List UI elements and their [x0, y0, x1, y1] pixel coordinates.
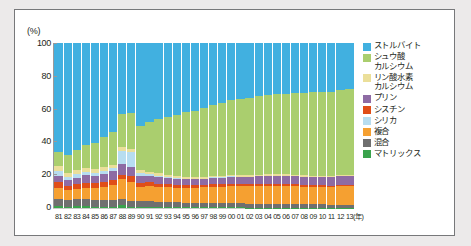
bar-91[interactable]: [145, 43, 153, 208]
legend-item-2[interactable]: リン酸水素 カルシウム: [363, 73, 451, 92]
bar-03[interactable]: [255, 43, 263, 208]
bar-segment: [91, 200, 99, 207]
legend-label: シリカ: [374, 116, 397, 126]
bar-87[interactable]: [109, 43, 117, 208]
legend-item-7[interactable]: 混合: [363, 138, 451, 148]
x-axis-unit-label: (年): [353, 210, 363, 224]
bar-segment: [82, 175, 90, 182]
bar-segment: [109, 207, 117, 208]
chart-figure: (%) 020406080100 81828384858687888990919…: [14, 9, 455, 236]
bar-10[interactable]: [318, 43, 326, 208]
bar-segment: [209, 187, 217, 204]
x-axis-tick-95: 95: [181, 210, 190, 224]
bar-88[interactable]: [118, 43, 126, 208]
legend-item-8[interactable]: マトリックス: [363, 149, 451, 159]
bar-95[interactable]: [182, 43, 190, 208]
legend-item-1[interactable]: シュウ酸 カルシウム: [363, 52, 451, 71]
bar-segment: [118, 151, 126, 164]
bar-segment: [209, 207, 217, 208]
bar-83[interactable]: [73, 43, 81, 208]
bar-segment: [218, 43, 226, 103]
bar-segment: [64, 155, 72, 173]
legend-color-swatch: [363, 54, 371, 62]
x-axis-tick-11: 11: [327, 210, 336, 224]
x-axis-tick-03: 03: [254, 210, 263, 224]
bar-segment: [64, 43, 72, 155]
bar-segment: [154, 177, 162, 184]
bar-segment: [154, 187, 162, 202]
bar-13[interactable]: [345, 43, 353, 208]
x-axis-tick-02: 02: [245, 210, 254, 224]
bar-08[interactable]: [300, 43, 308, 208]
bar-97[interactable]: [200, 43, 208, 208]
x-axis-tick-10: 10: [318, 210, 327, 224]
bar-segment: [327, 43, 335, 92]
bar-96[interactable]: [191, 43, 199, 208]
bar-93[interactable]: [164, 43, 172, 208]
bar-segment: [300, 43, 308, 93]
bar-segment: [245, 186, 253, 203]
bar-segment: [264, 95, 272, 174]
bar-segment: [127, 43, 135, 113]
x-axis-tick-labels: 8182838485868788899091929394959697989900…: [54, 210, 354, 224]
x-axis-tick-04: 04: [263, 210, 272, 224]
bar-segment: [109, 43, 117, 132]
bar-segment: [255, 43, 263, 96]
bar-02[interactable]: [245, 43, 253, 208]
x-axis-tick-93: 93: [163, 210, 172, 224]
legend-item-5[interactable]: シリカ: [363, 116, 451, 126]
bar-segment: [209, 105, 217, 176]
bar-99[interactable]: [218, 43, 226, 208]
bar-segment: [318, 177, 326, 185]
bar-segment: [173, 43, 181, 115]
bar-82[interactable]: [64, 43, 72, 208]
y-axis-tickmark-40: [53, 141, 57, 142]
legend-item-4[interactable]: シスチン: [363, 105, 451, 115]
bar-11[interactable]: [327, 43, 335, 208]
bar-01[interactable]: [236, 43, 244, 208]
bar-98[interactable]: [209, 43, 217, 208]
bar-81[interactable]: [54, 43, 62, 208]
bar-segment: [255, 186, 263, 204]
bar-04[interactable]: [264, 43, 272, 208]
bar-segment: [100, 200, 108, 207]
x-axis-tick-96: 96: [190, 210, 199, 224]
legend-color-swatch: [363, 74, 371, 82]
bar-segment: [282, 186, 290, 204]
bar-09[interactable]: [309, 43, 317, 208]
y-axis-tick-60: 60: [25, 104, 51, 114]
bar-segment: [182, 112, 190, 176]
bar-segment: [118, 179, 126, 199]
bar-12[interactable]: [336, 43, 344, 208]
legend-color-swatch: [363, 117, 371, 125]
bar-94[interactable]: [173, 43, 181, 208]
bar-05[interactable]: [273, 43, 281, 208]
bar-segment: [282, 176, 290, 184]
bar-segment: [218, 187, 226, 204]
bar-85[interactable]: [91, 43, 99, 208]
x-axis-tick-84: 84: [81, 210, 90, 224]
legend-item-6[interactable]: 複合: [363, 127, 451, 137]
x-axis-tick-89: 89: [127, 210, 136, 224]
x-axis-tick-86: 86: [99, 210, 108, 224]
bar-segment: [136, 187, 144, 202]
bar-92[interactable]: [154, 43, 162, 208]
legend-item-0[interactable]: ストルバイト: [363, 41, 451, 51]
legend-label: プリン: [374, 93, 397, 103]
bar-06[interactable]: [282, 43, 290, 208]
bar-segment: [164, 207, 172, 208]
x-axis-tick-85: 85: [90, 210, 99, 224]
bar-89[interactable]: [127, 43, 135, 208]
legend-label: シスチン: [374, 105, 405, 115]
bar-segment: [309, 187, 317, 204]
bar-00[interactable]: [227, 43, 235, 208]
bar-90[interactable]: [136, 43, 144, 208]
legend-item-3[interactable]: プリン: [363, 93, 451, 103]
bar-07[interactable]: [291, 43, 299, 208]
bar-segment: [200, 187, 208, 203]
y-axis-tickmark-80: [53, 76, 57, 77]
bar-86[interactable]: [100, 43, 108, 208]
bar-segment: [309, 43, 317, 92]
bar-84[interactable]: [82, 43, 90, 208]
bar-segment: [173, 207, 181, 208]
